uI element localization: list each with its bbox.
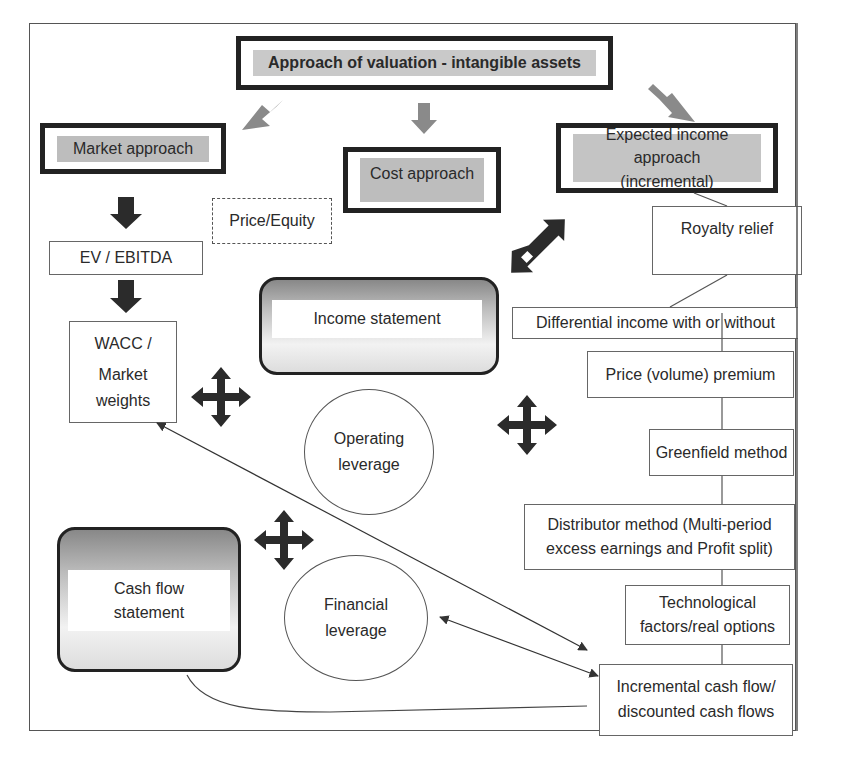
market-label: Market [99,362,148,388]
financial-label-line2: leverage [325,618,386,644]
income-statement-label: Income statement [313,307,440,330]
price-premium-box: Price (volume) premium [587,351,794,398]
wacc-label: WACC / [94,331,151,357]
expected-income-approach-box: Expected income approach (incremental) [556,123,778,193]
royalty-relief-box: Royalty relief [652,206,802,275]
income-statement-box: Income statement [259,277,499,375]
title-box: Approach of valuation - intangible asset… [236,36,613,90]
market-approach-label: Market approach [73,137,193,160]
royalty-relief-label: Royalty relief [681,217,773,240]
financial-leverage-ellipse: Financial leverage [284,555,428,681]
title-label: Approach of valuation - intangible asset… [268,51,581,74]
incremental-cash-flow-box: Incremental cash flow/ discounted cash f… [599,664,793,736]
differential-income-box: Differential income with or without [512,307,798,339]
distributor-label-line2: excess earnings and Profit split) [546,537,773,561]
operating-label-line2: leverage [338,452,399,478]
technological-factors-box: Technological factors/real options [625,585,790,645]
market-approach-box: Market approach [40,123,226,174]
differential-income-label: Differential income with or without [536,311,775,334]
financial-label-line1: Financial [324,592,388,618]
weights-label: weights [96,388,150,414]
distributor-method-box: Distributor method (Multi-period excess … [524,504,795,570]
distributor-label-line1: Distributor method (Multi-period [547,513,771,537]
expected-income-label-line2: (incremental) [620,170,713,193]
operating-leverage-ellipse: Operating leverage [304,389,434,515]
ev-ebitda-box: EV / EBITDA [49,241,203,275]
technological-label-line1: Technological [659,591,756,615]
greenfield-method-label: Greenfield method [656,441,788,464]
cash-flow-label-line2: statement [114,601,184,625]
cash-flow-statement-box: Cash flow statement [57,527,241,672]
cost-approach-label: Cost approach [370,162,474,185]
cost-approach-box: Cost approach [343,147,501,213]
price-equity-label: Price/Equity [229,209,314,232]
incremental-cf-label-line2: discounted cash flows [618,700,775,725]
operating-label-line1: Operating [334,426,404,452]
price-equity-box: Price/Equity [212,198,332,244]
greenfield-method-box: Greenfield method [649,429,794,476]
technological-label-line2: factors/real options [640,615,775,639]
ev-ebitda-label: EV / EBITDA [80,246,172,269]
expected-income-label-line1: Expected income approach [573,123,761,169]
cash-flow-label-line1: Cash flow [114,577,184,601]
price-premium-label: Price (volume) premium [606,363,776,386]
incremental-cf-label-line1: Incremental cash flow/ [616,675,775,700]
wacc-market-weights-box: WACC / Market weights [69,321,177,423]
